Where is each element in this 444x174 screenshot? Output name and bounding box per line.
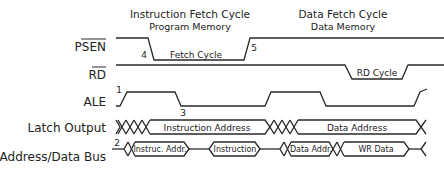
ale-waveform (116, 89, 427, 106)
marker-3: 3 (180, 108, 186, 118)
marker-1: 1 (116, 85, 122, 95)
instruction-address-label: Instruction Address (164, 123, 251, 133)
data-addr-label: Data Addr. (290, 145, 332, 154)
instruc-addr-label: Instruc. Addr. (133, 145, 186, 154)
instruction-fetch-title: Instruction Fetch Cycle (130, 8, 250, 20)
marker-4: 4 (141, 50, 147, 60)
data-address-label: Data Address (327, 123, 388, 133)
fetch-cycle-label: Fetch Cycle (170, 50, 222, 60)
signal-label-bus: Address/Data Bus (0, 150, 106, 164)
timing-diagram: Instruction Fetch Cycle Program Memory D… (0, 0, 444, 174)
psen-waveform (116, 38, 444, 60)
wr-data-label: WR Data (358, 145, 393, 154)
program-memory-subtitle: Program Memory (149, 21, 231, 32)
rd-cycle-label: RD Cycle (357, 68, 398, 78)
signal-label-latch: Latch Output (28, 121, 107, 135)
marker-5: 5 (251, 43, 257, 53)
instruction-label: Instruction (214, 145, 257, 154)
signal-label-psen: PSEN (75, 40, 106, 54)
data-memory-subtitle: Data Memory (311, 21, 376, 32)
signal-label-rd: RD (88, 68, 106, 82)
marker-2: 2 (114, 138, 120, 148)
signal-label-ale: ALE (84, 95, 106, 109)
data-fetch-title: Data Fetch Cycle (299, 8, 388, 20)
